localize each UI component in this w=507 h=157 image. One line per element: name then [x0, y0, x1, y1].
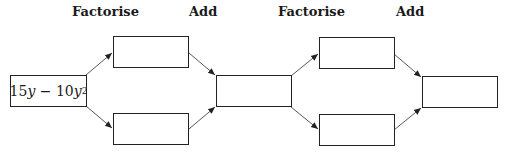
arrow-top-1-to-sum-1: [189, 53, 215, 75]
start-expression-box: 15y − 10y2: [10, 75, 87, 107]
coefficient-2: 10: [56, 83, 74, 99]
sum-answer-box-1[interactable]: [216, 75, 292, 107]
arrow-sum-1-to-bottom-2: [291, 107, 318, 129]
arrow-start-to-top-1: [86, 53, 112, 75]
sum-answer-box-2[interactable]: [422, 76, 498, 108]
coefficient-1: 15: [10, 83, 28, 99]
arrow-top-2-to-sum-2: [394, 54, 421, 77]
factor-answer-box-top-2[interactable]: [319, 37, 395, 69]
factor-answer-box-bottom-1[interactable]: [113, 113, 189, 145]
start-expression: 15y − 10y2: [11, 76, 86, 106]
operator: −: [40, 83, 52, 99]
arrow-bottom-2-to-sum-2: [394, 108, 421, 130]
variable-2: y: [74, 83, 82, 99]
arrow-start-to-bottom-1: [86, 106, 112, 128]
arrow-bottom-1-to-sum-1: [189, 107, 215, 129]
factor-answer-box-bottom-2[interactable]: [319, 114, 395, 146]
arrow-sum-1-to-top-2: [291, 54, 318, 76]
variable-1: y: [27, 83, 35, 99]
factor-answer-box-top-1[interactable]: [113, 36, 189, 68]
